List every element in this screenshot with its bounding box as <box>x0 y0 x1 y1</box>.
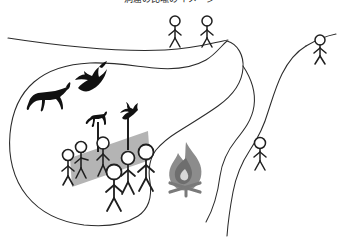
cave-shadow-bird-icon <box>75 61 107 91</box>
cave-shadow-horse-icon <box>27 82 71 111</box>
outside-figure-3 <box>314 35 326 64</box>
outside-figure-1 <box>169 16 181 47</box>
winding-exit-path <box>206 66 254 222</box>
cave-chamber-outline <box>10 41 244 226</box>
cave-figure-4 <box>106 165 122 212</box>
path-figure-1 <box>254 138 266 171</box>
cave-allegory-illustration <box>0 0 339 240</box>
upper-ground-line <box>8 38 228 50</box>
outside-figure-2 <box>201 16 213 47</box>
figure-canvas: 洞窟の比喩のイメージ <box>0 0 339 240</box>
exit-path-outer-edge <box>227 46 306 236</box>
campfire-icon <box>169 142 201 196</box>
cave-figure-6 <box>138 145 154 192</box>
cave-figure-5 <box>121 152 135 195</box>
